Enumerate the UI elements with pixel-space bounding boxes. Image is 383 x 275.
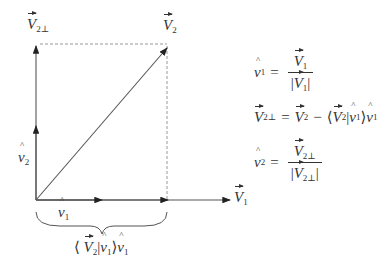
vector-arrow-icon: V (234, 189, 243, 206)
hat-icon: v (18, 149, 25, 166)
vector-arrow-icon: V (294, 143, 303, 160)
hat-icon: v (100, 239, 107, 256)
equation-v1-hat: v1 = V1 |V1| (254, 51, 313, 93)
vector-diagram (0, 0, 383, 275)
fraction: V1 |V1| (288, 51, 314, 93)
hat-icon: v (254, 64, 261, 81)
vector-arrow-icon: V (333, 109, 342, 126)
v2-arrow (36, 48, 167, 200)
hat-icon: v (366, 109, 373, 126)
v2-label: V2 (163, 17, 177, 35)
v2-hat-label: v2 (18, 149, 29, 167)
vector-arrow-icon: V (84, 239, 93, 256)
equation-v2-hat: v2 = V2⊥ |V2⊥| (254, 141, 322, 183)
v1-hat-label: v1 (58, 204, 69, 222)
v2-perp-label: V2⊥ (27, 16, 49, 34)
hat-icon: v (58, 204, 65, 221)
hat-icon: v (349, 109, 356, 126)
fraction: V2⊥ |V2⊥| (288, 141, 322, 183)
projection-label: ⟨ V2|v1⟩v1 (74, 238, 129, 257)
hat-icon: v (254, 154, 261, 171)
vector-arrow-icon: V (27, 16, 36, 33)
equation-v2-perp: V2⊥ = V2 − ⟨V2|v1⟩v1 (254, 108, 378, 126)
vector-arrow-icon: V (294, 53, 303, 70)
vector-arrow-icon: V (163, 17, 172, 34)
vector-arrow-icon: V (295, 109, 304, 126)
vector-arrow-icon: V (294, 75, 303, 92)
vector-arrow-icon: V (294, 165, 303, 182)
vector-arrow-icon: V (254, 109, 263, 126)
hat-icon: v (117, 239, 124, 256)
v1-label: V1 (234, 189, 248, 207)
